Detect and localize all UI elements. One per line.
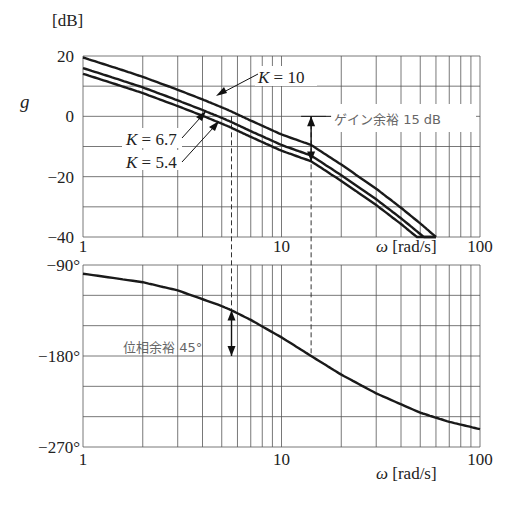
svg-text:100: 100 xyxy=(467,237,493,256)
svg-text:−270°: −270° xyxy=(38,438,80,457)
svg-text:−180°: −180° xyxy=(38,347,80,366)
svg-text:10: 10 xyxy=(273,450,290,469)
omega-label-top: ω [rad/s] xyxy=(376,237,437,256)
phase-plot-grid xyxy=(83,265,480,447)
svg-text:−20: −20 xyxy=(47,168,74,187)
k67-label: K = 6.7 xyxy=(125,130,177,149)
svg-text:−90°: −90° xyxy=(47,256,80,275)
svg-text:0: 0 xyxy=(66,107,75,126)
svg-text:20: 20 xyxy=(57,47,74,66)
gain-margin-label: ゲイン余裕 15 dB xyxy=(334,112,441,127)
svg-text:−40: −40 xyxy=(47,228,74,247)
bode-plot: [dB] g 200−20−40−90°−180°−270°1101001101… xyxy=(0,0,512,507)
k10-label: K = 10 xyxy=(257,68,304,87)
phase-margin-label: 位相余裕 45° xyxy=(123,340,202,355)
gain-unit-label: [dB] xyxy=(52,11,83,30)
gain-axis-symbol: g xyxy=(20,91,30,112)
svg-text:1: 1 xyxy=(79,237,88,256)
k54-label: K = 5.4 xyxy=(125,153,177,172)
svg-text:10: 10 xyxy=(273,237,290,256)
svg-text:100: 100 xyxy=(467,450,493,469)
omega-label-bottom: ω [rad/s] xyxy=(376,464,437,483)
svg-text:1: 1 xyxy=(79,450,88,469)
